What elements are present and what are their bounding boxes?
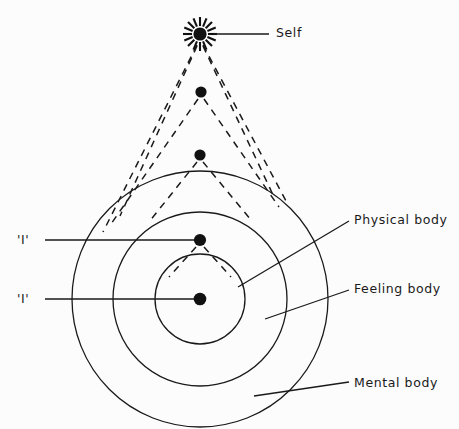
dashed-cone-i-upper (169, 247, 231, 277)
dashed-cone-node-2 (111, 99, 279, 224)
self-node (183, 17, 217, 51)
label-self: Self (276, 27, 302, 40)
label-feeling-body: Feeling body (354, 283, 441, 296)
node-dot-3 (194, 149, 205, 160)
label-i-lower: 'I' (17, 293, 29, 306)
label-mental-body: Mental body (354, 377, 438, 390)
leader-line-mental-body (254, 382, 349, 396)
dashed-cone-self-inner (120, 46, 274, 216)
leader-line-feeling-body (265, 290, 349, 319)
self-dot (193, 27, 206, 40)
i-lower-dot (194, 293, 207, 306)
label-i-upper: 'I' (17, 234, 29, 247)
dashed-cone-self-outer (103, 45, 286, 232)
node-dot-2 (195, 86, 206, 97)
label-physical-body: Physical body (354, 214, 448, 227)
diagram-page: Self Physical body Feeling body Mental b… (0, 0, 459, 429)
i-upper-dot (194, 234, 206, 246)
